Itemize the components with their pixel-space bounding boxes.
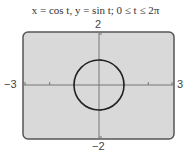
x-max-label: 3 [177,78,183,90]
x-min-label: −3 [4,78,17,90]
y-min-label: −2 [92,140,105,152]
y-max-label: 2 [95,18,101,30]
